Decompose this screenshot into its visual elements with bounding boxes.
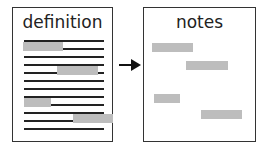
notes-title: notes	[144, 12, 255, 32]
definition-highlight-2	[57, 66, 98, 75]
definition-title: definition	[13, 12, 112, 32]
definition-document: definition	[12, 7, 113, 142]
text-line	[24, 88, 104, 90]
text-line	[24, 128, 104, 130]
text-line	[24, 56, 104, 58]
note-highlight-2	[186, 61, 228, 70]
text-line	[24, 80, 104, 82]
right-arrow-icon	[119, 59, 141, 71]
notes-document: notes	[143, 7, 256, 142]
note-highlight-1	[152, 43, 193, 52]
note-highlight-3	[154, 94, 180, 103]
note-highlight-4	[201, 110, 242, 119]
definition-highlight-3	[24, 98, 51, 107]
definition-highlight-4	[73, 114, 113, 123]
definition-highlight-1	[23, 42, 63, 51]
